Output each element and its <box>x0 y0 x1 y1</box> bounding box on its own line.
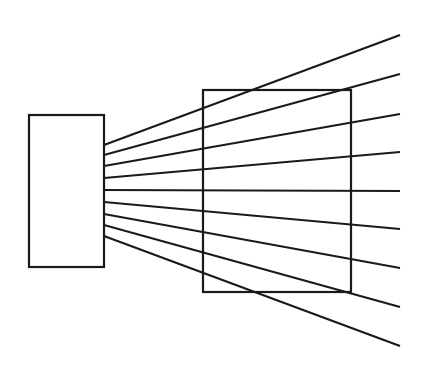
diagram-svg <box>0 0 422 379</box>
ray-line <box>104 214 400 268</box>
ray-line <box>104 190 400 191</box>
ray-line <box>104 74 400 155</box>
diagram-canvas <box>0 0 422 379</box>
source-rectangle <box>29 115 104 267</box>
ray-line <box>104 225 400 307</box>
ray-line <box>104 114 400 166</box>
ray-line <box>104 202 400 229</box>
ray-line <box>104 152 400 178</box>
rays-group <box>104 35 400 346</box>
